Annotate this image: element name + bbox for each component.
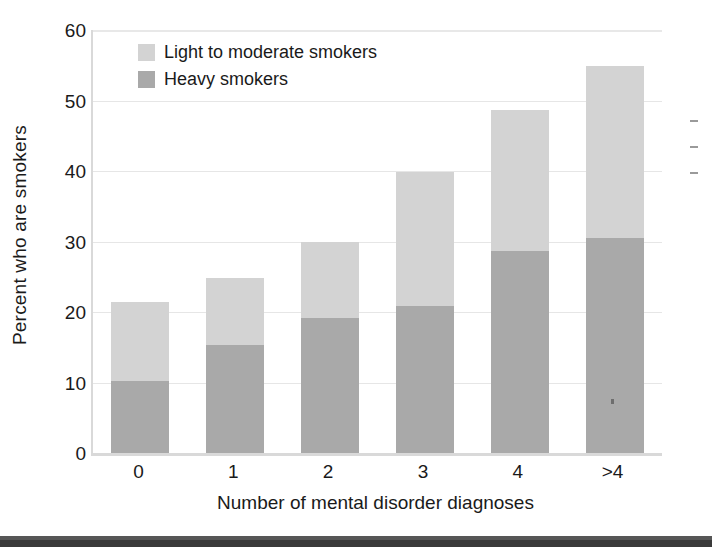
bar-group <box>586 66 644 453</box>
page-bottom-rule <box>0 536 712 547</box>
bar-segment-heavy-smokers <box>111 381 169 453</box>
plot-area <box>91 30 662 456</box>
x-tick-label: >4 <box>565 462 660 481</box>
legend-swatch <box>138 44 155 61</box>
page-bottom-rule-highlight <box>0 536 712 540</box>
y-axis-title: Percent who are smokers <box>0 0 40 470</box>
y-tick-label: 20 <box>40 303 86 322</box>
page-edge-mark <box>690 120 698 122</box>
bar-segment-heavy-smokers <box>396 306 454 453</box>
page-edge-marks <box>690 120 704 200</box>
x-tick-label: 3 <box>376 462 471 481</box>
bar-segment-heavy-smokers <box>301 318 359 453</box>
chart-legend: Light to moderate smokersHeavy smokers <box>138 40 377 91</box>
y-tick-label: 60 <box>40 21 86 40</box>
bar-segment-light-to-moderate-smokers <box>396 172 454 306</box>
x-tick-label: 1 <box>186 462 281 481</box>
page-edge-mark <box>690 146 698 148</box>
bar-group <box>491 110 549 453</box>
y-axis-title-text: Percent who are smokers <box>9 125 31 345</box>
y-tick-label: 30 <box>40 233 86 252</box>
legend-label: Heavy smokers <box>164 70 288 88</box>
stacked-bar-chart-figure: Percent who are smokers 0102030405060 01… <box>0 0 712 553</box>
x-tick-label: 2 <box>281 462 376 481</box>
bar-group <box>396 172 454 453</box>
x-tick-label: 4 <box>470 462 565 481</box>
bar-segment-light-to-moderate-smokers <box>206 278 264 345</box>
bar-segment-heavy-smokers <box>491 251 549 453</box>
bar-segment-light-to-moderate-smokers <box>111 302 169 381</box>
bar-series-container <box>93 30 662 453</box>
x-tick-label: 0 <box>91 462 186 481</box>
bar-segment-heavy-smokers <box>206 345 264 453</box>
y-tick-label: 0 <box>40 444 86 463</box>
page-edge-mark <box>690 172 698 174</box>
legend-item: Light to moderate smokers <box>138 40 377 64</box>
bar-segment-heavy-smokers <box>586 238 644 453</box>
y-axis-tick-labels: 0102030405060 <box>36 0 86 553</box>
y-tick-label: 50 <box>40 92 86 111</box>
bar-group <box>206 278 264 453</box>
x-axis-title: Number of mental disorder diagnoses <box>91 492 660 514</box>
scan-artifact-dot <box>611 399 614 404</box>
legend-label: Light to moderate smokers <box>164 43 377 61</box>
bar-segment-light-to-moderate-smokers <box>491 110 549 252</box>
bar-group <box>301 242 359 453</box>
y-tick-label: 40 <box>40 162 86 181</box>
y-tick-label: 10 <box>40 374 86 393</box>
bar-group <box>111 302 169 453</box>
bar-segment-light-to-moderate-smokers <box>301 242 359 317</box>
legend-item: Heavy smokers <box>138 67 377 91</box>
bar-segment-light-to-moderate-smokers <box>586 66 644 238</box>
legend-swatch <box>138 71 155 88</box>
